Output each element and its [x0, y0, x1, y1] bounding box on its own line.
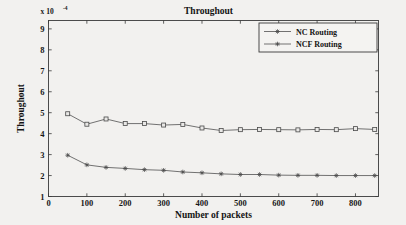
x-tick-label: 0 — [46, 198, 50, 208]
data-point-square — [219, 129, 223, 133]
data-point-star — [65, 153, 70, 158]
data-point-square — [200, 126, 204, 130]
data-point-star — [275, 29, 280, 34]
y-tick-label: 8 — [40, 45, 44, 55]
y-tick-label: 1 — [40, 192, 44, 202]
data-point-star — [275, 42, 280, 47]
data-point-square — [162, 123, 166, 127]
x-tick-label: 800 — [349, 198, 362, 208]
x-tick-label: 600 — [272, 198, 285, 208]
x-tick-label: 100 — [80, 198, 93, 208]
data-point-square — [353, 127, 357, 131]
y-tick-label: 4 — [40, 129, 45, 139]
x-tick-label: 500 — [234, 198, 247, 208]
data-point-star — [353, 173, 358, 178]
data-point-star — [85, 163, 90, 168]
legend-label-nc-routing: NC Routing — [296, 28, 337, 37]
data-point-star — [200, 171, 205, 176]
data-point-star — [372, 173, 377, 178]
data-point-square — [258, 127, 262, 131]
data-point-square — [238, 128, 242, 132]
data-point-star — [238, 172, 243, 177]
y-tick-label: 2 — [40, 171, 44, 181]
y-tick-label: 5 — [40, 108, 44, 118]
x-tick-label: 300 — [157, 198, 170, 208]
data-point-square — [315, 127, 319, 131]
data-point-star — [104, 165, 109, 170]
data-point-star — [315, 173, 320, 178]
data-point-square — [142, 122, 146, 126]
data-point-star — [276, 173, 281, 178]
y-tick-label: 7 — [40, 66, 45, 76]
data-point-square — [334, 128, 338, 132]
data-point-star — [257, 172, 262, 177]
data-point-square — [104, 117, 108, 121]
data-point-star — [123, 166, 128, 171]
data-point-star — [161, 168, 166, 173]
x-tick-label: 200 — [119, 198, 132, 208]
x-tick-label: 400 — [196, 198, 209, 208]
y-axis-exponent-power: -4 — [63, 5, 68, 11]
data-point-star — [181, 170, 186, 175]
series-line-ncf-routing — [68, 114, 375, 131]
data-point-star — [296, 173, 301, 178]
y-tick-label: 9 — [40, 24, 44, 34]
chart-canvas: 0100200300400500600700800123456789Throug… — [0, 0, 406, 225]
page-title: Throughout — [184, 6, 234, 16]
data-point-square — [296, 128, 300, 132]
data-point-square — [373, 127, 377, 131]
data-point-square — [181, 122, 185, 126]
y-tick-label: 6 — [40, 87, 44, 97]
y-axis-title: Throughout — [16, 83, 26, 133]
y-tick-label: 3 — [40, 150, 44, 160]
x-tick-label: 700 — [311, 198, 324, 208]
data-point-star — [219, 172, 224, 177]
data-point-square — [85, 122, 89, 126]
legend-label-ncf-routing: NCF Routing — [296, 40, 342, 49]
data-point-square — [66, 112, 70, 116]
data-point-square — [123, 122, 127, 126]
figure-container: 0100200300400500600700800123456789Throug… — [0, 0, 406, 225]
data-point-star — [334, 173, 339, 178]
data-point-square — [277, 128, 281, 132]
y-axis-exponent-prefix: x 10 — [41, 7, 54, 16]
x-axis-title: Number of packets — [175, 210, 252, 220]
data-point-star — [142, 167, 147, 172]
